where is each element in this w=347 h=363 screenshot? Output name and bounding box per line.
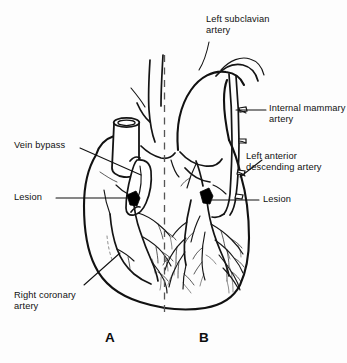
cap-b9c xyxy=(200,274,204,286)
label-internal-mammary-artery: Internal mammary artery xyxy=(269,103,346,126)
diagonal-twig-a4 xyxy=(156,247,158,263)
leader-right-coronary xyxy=(84,253,120,285)
pulmonary-artery-b xyxy=(180,152,222,166)
leader-left-subclavian xyxy=(199,42,209,70)
cap-branch-b6 xyxy=(169,252,185,287)
cap-branch-b9 xyxy=(202,232,205,280)
cap-branch-b3 xyxy=(219,255,240,290)
aortic-arch xyxy=(178,72,244,150)
diagonal-branch-a1 xyxy=(138,213,170,236)
brachiocephalic-trunk-a xyxy=(149,60,155,142)
cap-b5a xyxy=(176,247,177,263)
right-atrium-border xyxy=(96,136,114,155)
cap-b4a xyxy=(232,279,233,292)
coronary-capillary-bed-b xyxy=(163,216,244,293)
cap-b6a xyxy=(178,262,179,278)
conus-branch-a xyxy=(116,185,128,194)
cap-b7a xyxy=(184,274,194,285)
label-left-subclavian-artery: Left subclavian artery xyxy=(206,14,270,37)
label-lesion-left: Lesion xyxy=(14,192,42,203)
ascending-aorta-b xyxy=(224,80,229,140)
apical-twig-a1 xyxy=(158,272,168,281)
label-vein-bypass: Vein bypass xyxy=(14,140,65,151)
lesion-b xyxy=(200,188,213,204)
pulmonary-valve-curve xyxy=(185,168,210,182)
conus-branch-b xyxy=(213,185,226,194)
cap-branch-b8 xyxy=(191,216,200,242)
label-right-coronary-artery: Right coronary artery xyxy=(14,290,76,313)
apical-twig-a2 xyxy=(160,277,161,290)
circumflex-artery-b xyxy=(184,200,191,265)
coronary-bypass-figure: Left subclavian artery Internal mammary … xyxy=(0,0,347,363)
label-lesion-right: Lesion xyxy=(263,194,291,205)
heart-outline-group xyxy=(84,136,249,309)
cap-b9d xyxy=(206,255,216,264)
right-coronary-artery xyxy=(110,214,151,284)
label-left-anterior-descending-artery: Left anterior descending artery xyxy=(246,151,322,174)
cap-branch-b7 xyxy=(183,265,186,289)
aortic-arch-remnant-a xyxy=(141,146,175,158)
diagonal-twig-a3 xyxy=(170,236,172,249)
panel-b-group xyxy=(163,74,247,293)
cap-b3c xyxy=(227,281,229,293)
cap-b7b xyxy=(183,283,191,293)
panel-caption-a: A xyxy=(105,330,115,345)
cap-b9b xyxy=(194,262,202,274)
rca-proximal-segment xyxy=(104,190,110,214)
left-atrial-appendage xyxy=(171,160,179,177)
ima-clip-4 xyxy=(235,194,243,199)
left-common-carotid-a xyxy=(161,55,163,106)
ima-distal-anastomosis xyxy=(212,214,224,217)
rca-dotted-segment xyxy=(107,236,113,262)
cap-b9a xyxy=(193,248,202,259)
panel-caption-b: B xyxy=(199,330,209,345)
